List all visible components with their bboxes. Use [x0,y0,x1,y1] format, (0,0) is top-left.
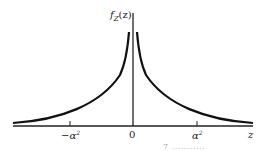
curve-right [137,32,253,123]
footer-text: 7 ........... [163,142,205,151]
tick-label-zero: 0 [129,129,135,140]
tick-label-pos: α2 [192,129,203,141]
curve-left [13,32,129,123]
tick-label-neg: −α2 [61,129,80,141]
x-axis-label: z [248,129,253,140]
y-axis-label: fZ(z) [110,9,132,23]
